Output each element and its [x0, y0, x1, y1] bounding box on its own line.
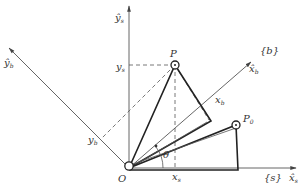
svg-text:x̂s: x̂s [289, 172, 298, 184]
point-p-dot [174, 64, 176, 66]
theta-label: θ [163, 149, 169, 160]
origin-label: O [118, 173, 126, 184]
svg-text:xs: xs [172, 171, 181, 183]
x-b-axis [129, 62, 251, 168]
svg-text:xb: xb [215, 94, 225, 106]
svg-text:P0: P0 [242, 113, 254, 125]
theta-arc-marker [155, 145, 158, 148]
rotated-body-outline [129, 65, 211, 168]
y-b-hat-label: ŷb [3, 57, 14, 69]
svg-text:ŷs: ŷs [114, 12, 124, 24]
original-body-inner [133, 128, 236, 164]
y-s-hat-label: ŷs [114, 12, 124, 24]
rotated-body-inner [133, 122, 207, 166]
svg-text:x̂b: x̂b [249, 63, 259, 75]
x-b-hat-label: x̂b [249, 63, 259, 75]
point-p0-dot [235, 124, 237, 126]
origin-joint [125, 162, 133, 170]
x-s-coord-label: xs [172, 171, 181, 183]
point-p0-label: P0 [242, 113, 254, 125]
svg-text:{s}: {s} [264, 172, 282, 183]
svg-text:P: P [169, 48, 177, 59]
x-b-coord-label: xb [215, 94, 225, 106]
y-b-coord-label: yb [87, 134, 98, 146]
y-s-coord-label: ys [115, 61, 125, 73]
point-p-label: P [169, 48, 177, 59]
y-b-axis [9, 48, 129, 168]
svg-text:ys: ys [115, 61, 125, 73]
svg-text:θ: θ [163, 149, 169, 160]
frame-b-label: {b} [260, 45, 279, 56]
x-s-hat-label: x̂s [289, 172, 298, 184]
y-b-projection [101, 65, 175, 139]
frame-rotation-diagram: ŷs ys P {b} x̂b xb ŷb yb P0 θ O xs {s} x… [0, 0, 305, 190]
svg-text:O: O [118, 173, 126, 184]
svg-text:ŷb: ŷb [3, 57, 14, 69]
svg-text:yb: yb [87, 134, 98, 146]
svg-text:{b}: {b} [260, 45, 279, 56]
frame-s-label: {s} [264, 172, 282, 183]
